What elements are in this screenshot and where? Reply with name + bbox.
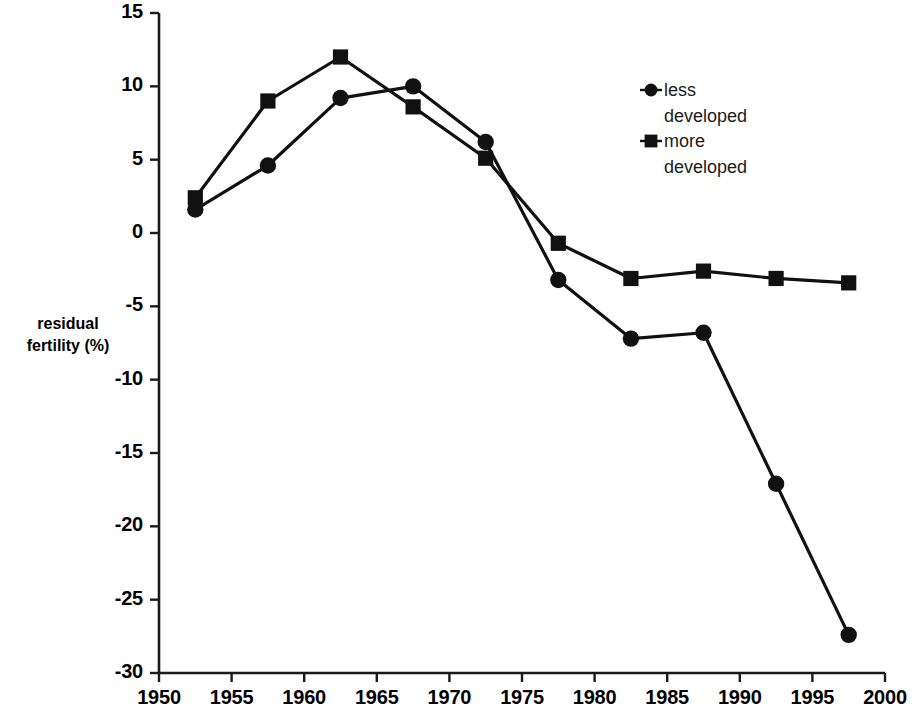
- data-point-square: [841, 275, 856, 290]
- legend-item-more-developed[interactable]: more developed: [640, 129, 855, 180]
- x-axis-tick-label: 1995: [791, 686, 835, 709]
- data-point-circle: [768, 476, 784, 492]
- data-point-square: [188, 190, 203, 205]
- y-axis-tick-label: 0: [132, 220, 143, 243]
- data-point-square: [551, 236, 566, 251]
- data-point-square: [623, 271, 638, 286]
- data-point-circle: [478, 134, 494, 150]
- x-axis-tick-label: 1965: [355, 686, 399, 709]
- data-point-circle: [550, 272, 566, 288]
- x-axis-tick-label: 1980: [573, 686, 617, 709]
- y-axis-tick-label: -20: [115, 513, 143, 536]
- data-point-circle: [405, 78, 421, 94]
- y-axis-tick-label: 5: [132, 147, 143, 170]
- y-axis-tick-label: -25: [115, 587, 143, 610]
- y-axis-title-line2: fertility (%): [27, 337, 110, 354]
- x-axis-tick-label: 1955: [210, 686, 254, 709]
- x-axis-tick-label: 1960: [282, 686, 326, 709]
- y-axis-tick-label: -30: [115, 660, 143, 683]
- y-axis-tick-label: 15: [121, 0, 143, 23]
- data-point-square: [406, 99, 421, 114]
- x-axis-tick-label: 1950: [137, 686, 181, 709]
- legend-label-more-developed-line1: more: [640, 129, 855, 155]
- legend-item-less-developed[interactable]: less developed: [640, 78, 855, 129]
- circle-marker-icon: [640, 81, 662, 99]
- data-point-circle: [260, 157, 276, 173]
- y-axis-title-line1: residual: [37, 315, 98, 332]
- y-axis-tick-label: -5: [126, 293, 143, 316]
- x-axis-tick-label: 1975: [500, 686, 544, 709]
- data-point-square: [696, 264, 711, 279]
- chart-container: 151050-5-10-15-20-25-30 1950195519601965…: [0, 0, 914, 709]
- data-point-square: [478, 151, 493, 166]
- x-axis-tick-label: 1990: [718, 686, 762, 709]
- data-point-circle: [695, 325, 711, 341]
- x-axis-tick-label: 2000: [863, 686, 907, 709]
- legend-label-less-developed-line1: less: [640, 78, 855, 104]
- square-marker-icon: [640, 132, 662, 150]
- chart-legend: less developed more developed: [640, 78, 855, 180]
- y-axis-tick-label: 10: [121, 73, 143, 96]
- legend-label-less-developed-line2: developed: [640, 104, 855, 130]
- data-point-square: [260, 93, 275, 108]
- x-axis-tick-label: 1985: [645, 686, 689, 709]
- data-point-square: [333, 49, 348, 64]
- data-point-circle: [841, 627, 857, 643]
- legend-label-more-developed-line2: developed: [640, 155, 855, 181]
- data-point-circle: [332, 90, 348, 106]
- y-axis-tick-label: -15: [115, 440, 143, 463]
- data-point-circle: [623, 330, 639, 346]
- data-point-square: [769, 271, 784, 286]
- y-axis-title: residual fertility (%): [8, 313, 128, 356]
- y-axis-tick-label: -10: [115, 367, 143, 390]
- x-axis-tick-label: 1970: [428, 686, 472, 709]
